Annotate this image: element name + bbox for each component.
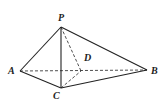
edge-pa [20,27,61,71]
label-p: P [58,12,65,23]
pyramid-diagram: P A B C D [0,0,168,107]
label-a: A [7,65,15,76]
edge-ab [20,70,147,71]
edge-pd [61,27,81,71]
vertex-labels: P A B C D [7,12,158,101]
label-b: B [150,65,158,76]
label-d: D [83,52,91,63]
label-c: C [53,90,60,101]
edge-pb [61,27,147,70]
edge-ac [20,71,61,88]
edge-cb [61,70,147,88]
